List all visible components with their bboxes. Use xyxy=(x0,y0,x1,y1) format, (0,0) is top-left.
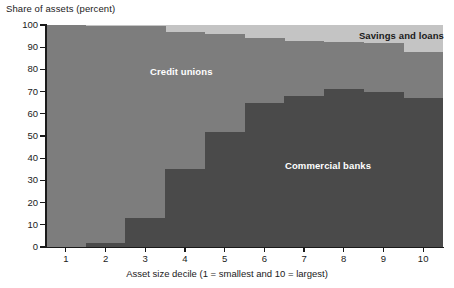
y-axis-tick-label-wrap: 20 xyxy=(0,198,38,208)
y-axis-tick-label: 50 xyxy=(4,131,38,141)
y-axis-tick-label-wrap: 80 xyxy=(0,64,38,74)
x-axis-tick-label: 9 xyxy=(371,253,395,264)
area-segment-commercial-banks xyxy=(165,169,205,247)
x-axis-tick-label: 1 xyxy=(54,253,78,264)
x-axis-tick-label: 6 xyxy=(252,253,276,264)
y-axis-tick-label: 100 xyxy=(4,20,38,30)
x-axis-tick-label: 7 xyxy=(292,253,316,264)
y-axis-tick-label-wrap: 10 xyxy=(0,220,38,230)
y-axis-tick xyxy=(40,246,45,247)
x-axis-tick-label: 4 xyxy=(173,253,197,264)
y-axis-tick-label: 80 xyxy=(4,64,38,74)
y-axis-tick-label-wrap: 50 xyxy=(0,131,38,141)
area-segment-commercial-banks xyxy=(403,98,443,247)
y-axis-tick xyxy=(40,180,45,181)
x-axis-tick xyxy=(343,247,344,252)
x-axis-tick xyxy=(303,247,304,252)
x-axis-tick-label: 2 xyxy=(94,253,118,264)
y-axis-tick-label-wrap: 70 xyxy=(0,87,38,97)
x-axis-tick xyxy=(423,247,424,252)
x-axis-tick-label: 8 xyxy=(332,253,356,264)
x-axis-tick-label: 3 xyxy=(133,253,157,264)
series-label-savings-and-loans: Savings and loans xyxy=(359,30,444,41)
y-axis-tick xyxy=(40,224,45,225)
y-axis-tick-label: 40 xyxy=(4,153,38,163)
area-segment-commercial-banks xyxy=(205,132,245,247)
area-segment-commercial-banks xyxy=(125,218,165,247)
area-segment-credit-unions xyxy=(86,26,126,247)
y-axis-tick xyxy=(40,69,45,70)
series-label-commercial-banks: Commercial banks xyxy=(285,160,371,171)
y-axis-tick-label-wrap: 40 xyxy=(0,153,38,163)
y-axis-tick-label: 20 xyxy=(4,198,38,208)
area-segment-commercial-banks xyxy=(245,103,285,247)
y-axis-tick xyxy=(40,158,45,159)
y-axis-title: Share of assets (percent) xyxy=(6,3,115,14)
area-segment-credit-unions xyxy=(125,26,165,247)
y-axis-tick-label: 10 xyxy=(4,220,38,230)
area-segment-credit-unions xyxy=(46,25,86,247)
x-axis-tick xyxy=(224,247,225,252)
x-axis-tick xyxy=(65,247,66,252)
y-axis-line xyxy=(45,24,47,248)
x-axis-tick-label: 5 xyxy=(213,253,237,264)
y-axis-tick xyxy=(40,47,45,48)
area-segment-commercial-banks xyxy=(284,96,324,247)
y-axis-tick-label-wrap: 30 xyxy=(0,175,38,185)
y-axis-tick xyxy=(40,202,45,203)
x-axis-tick xyxy=(105,247,106,252)
x-axis-tick-label: 10 xyxy=(411,253,435,264)
y-axis-tick-label-wrap: 0 xyxy=(0,242,38,252)
y-axis-tick-label: 0 xyxy=(4,242,38,252)
y-axis-tick-label-wrap: 90 xyxy=(0,42,38,52)
y-axis-tick-label: 30 xyxy=(4,175,38,185)
series-label-credit-unions: Credit unions xyxy=(150,66,213,77)
y-axis-tick xyxy=(40,113,45,114)
x-axis-tick xyxy=(145,247,146,252)
plot-area xyxy=(46,25,443,247)
x-axis-tick xyxy=(184,247,185,252)
y-axis-tick-label: 90 xyxy=(4,42,38,52)
y-axis-tick-label: 70 xyxy=(4,87,38,97)
y-axis-tick-label-wrap: 100 xyxy=(0,20,38,30)
y-axis-tick xyxy=(40,135,45,136)
y-axis-tick-label-wrap: 60 xyxy=(0,109,38,119)
x-axis-tick xyxy=(383,247,384,252)
y-axis-tick xyxy=(40,91,45,92)
y-axis-tick xyxy=(40,24,45,25)
y-axis-tick-label: 60 xyxy=(4,109,38,119)
x-axis-title: Asset size decile (1 = smallest and 10 =… xyxy=(0,268,454,279)
chart-figure: Share of assets (percent) 01020304050607… xyxy=(0,0,454,288)
x-axis-tick xyxy=(264,247,265,252)
